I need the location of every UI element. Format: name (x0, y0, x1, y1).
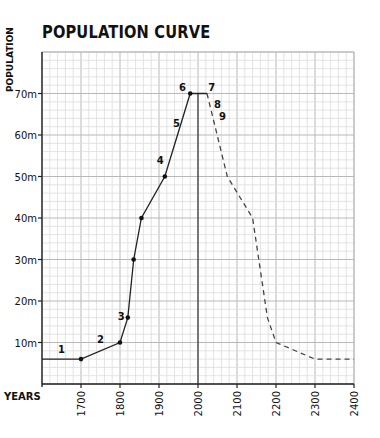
x-tick-label: 2200 (271, 391, 282, 416)
y-tick-label: 10m (15, 338, 37, 349)
point-label: 1 (58, 344, 65, 355)
point-label: 7 (208, 82, 215, 93)
x-tick-label: 1900 (154, 391, 165, 416)
point-label: 3 (118, 311, 125, 322)
x-tick-label: 1700 (76, 391, 87, 416)
y-tick-label: 50m (15, 172, 37, 183)
y-tick-label: 30m (15, 255, 37, 266)
y-tick-label: 20m (15, 296, 37, 307)
point-label: 8 (214, 99, 221, 110)
x-tick-label: 2400 (349, 391, 360, 416)
x-tick-label: 2100 (232, 391, 243, 416)
population-chart: 10m20m30m40m50m60m70m1700180019002000210… (0, 0, 380, 438)
point-label: 6 (179, 82, 186, 93)
x-tick-label: 2300 (310, 391, 321, 416)
data-point (139, 216, 144, 221)
y-tick-label: 60m (15, 130, 37, 141)
x-tick-label: 2000 (193, 391, 204, 416)
point-label: 9 (219, 111, 226, 122)
data-point (131, 257, 136, 262)
point-label: 4 (157, 155, 164, 166)
y-tick-label: 40m (15, 213, 37, 224)
y-tick-label: 70m (15, 89, 37, 100)
data-point (188, 91, 193, 96)
data-point (79, 357, 84, 362)
data-point (126, 315, 131, 320)
point-label: 2 (97, 334, 104, 345)
x-axis-label: YEARS (3, 391, 41, 402)
data-point (118, 340, 123, 345)
x-tick-label: 1800 (115, 391, 126, 416)
point-label: 5 (173, 118, 180, 129)
data-point (163, 174, 168, 179)
